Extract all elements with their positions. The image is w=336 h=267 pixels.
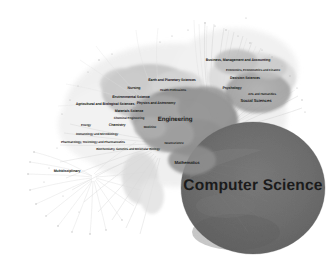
node-label-decision-sciences[interactable]: Decision Sciences	[230, 77, 260, 81]
node-label-arts-and-humanities[interactable]: Arts and Humanities	[248, 93, 276, 96]
node-label-computer-science[interactable]: Computer Science	[183, 178, 322, 194]
node-label-medicine[interactable]: Medicine	[144, 126, 156, 129]
node-label-mathematics[interactable]: Mathematics	[175, 161, 200, 165]
node-label-psychology[interactable]: Psychology	[222, 87, 241, 91]
node-label-earth-and-planetary-sciences[interactable]: Earth and Planetary Sciences	[148, 79, 196, 83]
node-label-biochemistry-genetics-and-molecular-biology[interactable]: Biochemistry, Genetics and Molecular Bio…	[96, 148, 160, 151]
node-label-neuroscience[interactable]: Neuroscience	[164, 142, 183, 145]
node-label-energy[interactable]: Energy	[81, 124, 91, 127]
node-label-economics-econometrics-and-finance[interactable]: Economics, Econometrics and Finance	[226, 69, 280, 72]
node-label-immunology-and-microbiology[interactable]: Immunology and Microbiology	[76, 133, 118, 136]
science-map-figure: Computer ScienceMathematicsEngineeringMa…	[0, 0, 336, 267]
node-label-nursing[interactable]: Nursing	[128, 87, 141, 91]
node-label-health-professions[interactable]: Health Professions	[160, 89, 186, 92]
node-label-multidisciplinary[interactable]: Multidisciplinary	[54, 170, 81, 174]
node-label-chemistry[interactable]: Chemistry	[109, 124, 126, 128]
node-label-business-management-and-accounting[interactable]: Business, Management and Accounting	[206, 59, 270, 63]
node-label-chemical-engineering[interactable]: Chemical Engineering	[114, 117, 145, 120]
node-label-engineering[interactable]: Engineering	[158, 117, 193, 123]
node-label-environmental-science[interactable]: Environmental Science	[112, 96, 149, 100]
node-label-agricultural-and-biological-sciences[interactable]: Agricultural and Biological Sciences	[76, 103, 135, 107]
node-label-social-sciences[interactable]: Social Sciences	[241, 99, 272, 103]
node-label-physics-and-astronomy[interactable]: Physics and Astronomy	[137, 102, 176, 106]
node-label-materials-science[interactable]: Materials Science	[115, 110, 143, 114]
node-label-pharmacology-toxicology-and-pharmaceutics[interactable]: Pharmacology, Toxicology and Pharmaceuti…	[61, 141, 125, 144]
node-label-layer: Computer ScienceMathematicsEngineeringMa…	[0, 0, 336, 267]
